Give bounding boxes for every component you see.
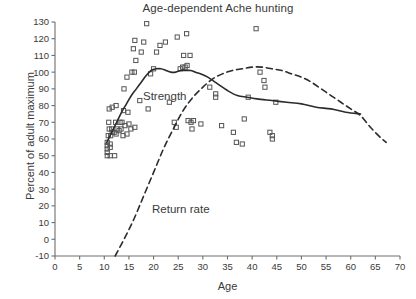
svg-text:10: 10: [99, 261, 110, 272]
svg-text:10: 10: [38, 217, 49, 228]
x-axis-title: Age: [55, 280, 400, 292]
svg-text:60: 60: [38, 133, 49, 144]
svg-text:30: 30: [38, 184, 49, 195]
svg-text:25: 25: [173, 261, 184, 272]
svg-text:0: 0: [44, 234, 49, 245]
svg-text:70: 70: [395, 261, 406, 272]
scatter-points: [105, 22, 278, 158]
series-label-strength: Strength: [143, 90, 186, 102]
y-axis: -100102030405060708090100110120130: [33, 16, 55, 261]
svg-text:40: 40: [247, 261, 258, 272]
series-label-return-rate: Return rate: [152, 203, 210, 215]
svg-text:15: 15: [124, 261, 135, 272]
svg-text:5: 5: [77, 261, 82, 272]
svg-text:70: 70: [38, 117, 49, 128]
svg-text:30: 30: [198, 261, 209, 272]
chart-plot-area: -100102030405060708090100110120130 05101…: [0, 0, 416, 299]
svg-text:40: 40: [38, 167, 49, 178]
svg-text:50: 50: [296, 261, 307, 272]
svg-text:20: 20: [38, 200, 49, 211]
chart-container: Age-dependent Ache hunting -100102030405…: [0, 0, 416, 299]
svg-text:80: 80: [38, 100, 49, 111]
svg-text:110: 110: [34, 50, 49, 61]
svg-text:60: 60: [345, 261, 356, 272]
svg-text:130: 130: [33, 16, 49, 27]
svg-text:0: 0: [52, 261, 57, 272]
svg-text:55: 55: [321, 261, 332, 272]
y-axis-title: Percent of adult maximum: [24, 36, 36, 236]
svg-text:35: 35: [222, 261, 233, 272]
svg-text:-10: -10: [35, 250, 49, 261]
svg-text:50: 50: [38, 150, 49, 161]
svg-text:65: 65: [370, 261, 381, 272]
x-axis: 0510152025303540455055606570: [52, 256, 405, 272]
svg-text:90: 90: [38, 83, 49, 94]
svg-text:45: 45: [271, 261, 282, 272]
svg-text:20: 20: [148, 261, 159, 272]
